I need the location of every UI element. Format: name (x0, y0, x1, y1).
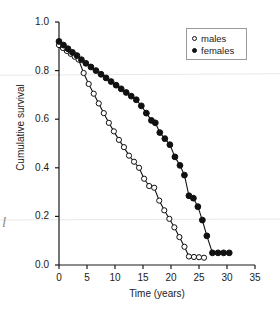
x-tick-label: 0 (46, 272, 72, 283)
y-tick-label: 0.8 (23, 65, 49, 76)
data-point-males (167, 216, 172, 221)
data-point-males (86, 81, 91, 86)
data-point-females (210, 250, 216, 256)
y-tick-label: 0.2 (23, 210, 49, 221)
legend-label-males: males (201, 34, 226, 44)
data-point-females (182, 172, 188, 178)
data-point-males (157, 198, 162, 203)
data-point-males (162, 208, 167, 213)
y-tick-label: 0.4 (23, 162, 49, 173)
data-point-females (204, 233, 210, 239)
x-tick-label: 10 (102, 272, 128, 283)
x-axis-label: Time (years) (59, 288, 255, 299)
data-point-males (106, 120, 111, 125)
data-point-females (83, 60, 89, 66)
data-point-females (108, 79, 114, 85)
data-point-males (201, 255, 206, 260)
data-point-males (186, 254, 191, 259)
data-point-females (162, 136, 168, 142)
data-series-group (56, 39, 232, 261)
data-point-females (133, 97, 139, 103)
series-line-males (59, 45, 204, 258)
data-point-females (152, 120, 158, 126)
data-point-females (199, 217, 205, 223)
series-males (56, 42, 206, 260)
legend-label-females: females (201, 46, 234, 56)
data-point-females (123, 90, 129, 96)
data-point-females (191, 195, 197, 201)
survival-curve-figure: l Cumulative survival Time (years) 0.00.… (0, 0, 280, 310)
data-point-males (126, 153, 131, 158)
data-point-females (118, 86, 124, 92)
legend-box: males females (186, 28, 247, 60)
data-point-females (177, 162, 183, 168)
data-point-males (191, 254, 196, 259)
data-point-males (196, 255, 201, 260)
x-tick-label: 15 (130, 272, 156, 283)
x-tick-label: 25 (186, 272, 212, 283)
x-tick-label: 35 (242, 272, 268, 283)
data-point-males (96, 101, 101, 106)
data-point-males (121, 145, 126, 150)
data-point-females (226, 250, 232, 256)
data-point-males (116, 137, 121, 142)
data-point-females (98, 71, 104, 77)
y-tick-label: 0.0 (23, 259, 49, 270)
open-circle-icon (192, 36, 197, 41)
data-point-males (101, 111, 106, 116)
data-point-males (142, 176, 147, 181)
y-tick-label: 0.6 (23, 113, 49, 124)
y-tick-label: 1.0 (23, 16, 49, 27)
data-point-females (103, 75, 109, 81)
x-tick-label: 30 (214, 272, 240, 283)
x-tick-label: 20 (158, 272, 184, 283)
data-point-females (195, 204, 201, 210)
data-point-females (88, 64, 94, 70)
data-point-females (167, 142, 173, 148)
data-point-males (81, 70, 86, 75)
data-point-males (136, 165, 141, 170)
data-point-males (111, 129, 116, 134)
filled-circle-icon (192, 48, 197, 53)
data-point-females (128, 93, 134, 99)
data-point-females (93, 68, 99, 74)
x-tick-label: 5 (74, 272, 100, 283)
data-point-females (113, 82, 119, 88)
data-point-males (177, 234, 182, 239)
data-point-females (138, 103, 144, 109)
data-point-males (91, 91, 96, 96)
data-point-females (215, 250, 221, 256)
data-point-males (152, 185, 157, 190)
data-point-males (182, 244, 187, 249)
data-point-females (172, 154, 178, 160)
data-point-females (221, 250, 227, 256)
data-point-males (172, 225, 177, 230)
legend-entry-females: females (192, 44, 234, 57)
data-point-males (131, 159, 136, 164)
data-point-males (147, 183, 152, 188)
data-point-females (157, 130, 163, 136)
data-point-females (143, 110, 149, 116)
